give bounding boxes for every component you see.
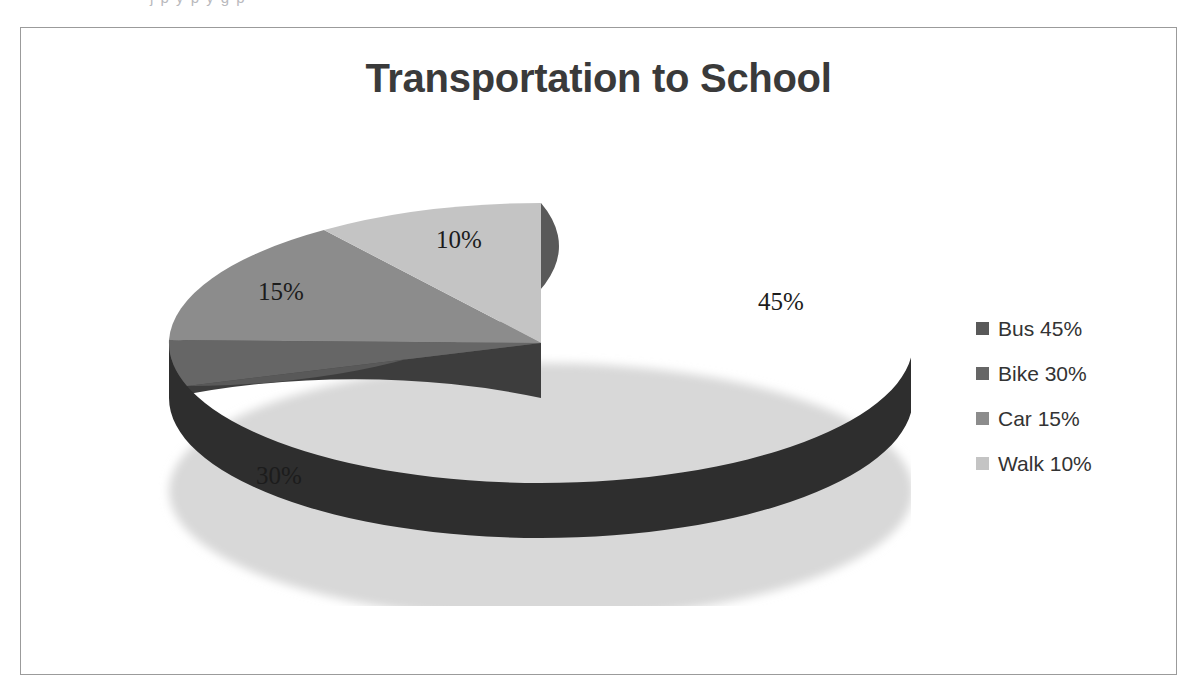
pie-label-car: 15% [258, 278, 304, 305]
pie-label-bus: 45% [758, 288, 804, 315]
legend-swatch-walk [976, 457, 989, 470]
legend-swatch-bike [976, 367, 989, 380]
legend-item-car[interactable]: Car 15% [976, 396, 1166, 441]
chart-plot-area: 45% 30% 15% 10% Bus 45% Bike 30% Car 15%… [21, 28, 1178, 676]
scan-artifact-text: j p y p y g p [150, 0, 246, 6]
chart-legend: Bus 45% Bike 30% Car 15% Walk 10% [976, 306, 1166, 486]
legend-swatch-bus [976, 322, 989, 335]
legend-item-bus[interactable]: Bus 45% [976, 306, 1166, 351]
figure-frame: Transportation to School [20, 27, 1177, 675]
pie-label-bike: 30% [256, 462, 302, 489]
legend-item-walk[interactable]: Walk 10% [976, 441, 1166, 486]
legend-label-walk: Walk 10% [998, 452, 1092, 476]
legend-swatch-car [976, 412, 989, 425]
scan-artifact-line: j p y p y g p [0, 0, 1196, 14]
legend-label-car: Car 15% [998, 407, 1080, 431]
pie-label-walk: 10% [436, 226, 482, 253]
legend-label-bus: Bus 45% [998, 317, 1082, 341]
legend-label-bike: Bike 30% [998, 362, 1087, 386]
pie-chart-3d: 45% 30% 15% 10% [121, 146, 911, 606]
legend-item-bike[interactable]: Bike 30% [976, 351, 1166, 396]
